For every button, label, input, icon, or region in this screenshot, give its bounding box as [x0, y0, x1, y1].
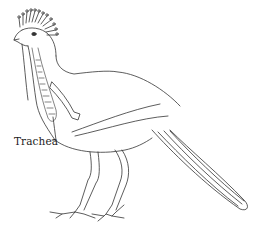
trachea: [32, 48, 56, 121]
bird-illustration: Trachea: [0, 0, 265, 232]
bird-drawing: [0, 0, 265, 232]
crest: [18, 9, 58, 35]
trachea-label: Trachea: [14, 135, 58, 147]
head: [14, 28, 56, 56]
legs: [50, 150, 129, 221]
tail: [152, 130, 247, 210]
